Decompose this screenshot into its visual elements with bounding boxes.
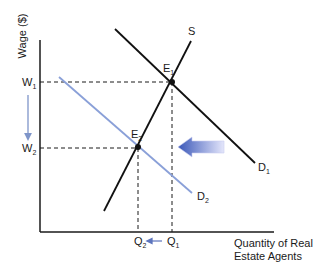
q2-subscript: 2 (143, 242, 147, 249)
e2-label: E2 (131, 128, 142, 142)
e1-letter: E (163, 62, 170, 74)
demand-d1-letter: D (258, 161, 266, 173)
q1-subscript: 1 (176, 242, 180, 249)
demand-d2-subscript: 2 (205, 197, 209, 204)
x-axis-label-line1: Quantity of Real (234, 237, 313, 249)
labor-market-diagram: Wage ($) Quantity of Real Estate Agents … (0, 0, 333, 275)
e2-subscript: 2 (138, 135, 142, 142)
equilibrium-point-e1 (169, 79, 175, 85)
q2-label: Q2 (134, 235, 147, 249)
w2-label: W2 (22, 142, 36, 156)
w1-letter: W (22, 76, 33, 88)
w2-subscript: 2 (32, 149, 36, 156)
demand-d1-subscript: 1 (266, 168, 270, 175)
e2-letter: E (131, 128, 138, 140)
e1-label: E1 (163, 62, 174, 76)
supply-curve (104, 41, 191, 211)
w1-subscript: 1 (32, 83, 36, 90)
q1-label: Q1 (167, 235, 180, 249)
w2-letter: W (22, 142, 33, 154)
supply-label: S (188, 25, 195, 37)
demand-d1-label: D1 (258, 161, 270, 175)
equilibrium-point-e2 (135, 144, 141, 150)
x-axis-label-line2: Estate Agents (234, 250, 302, 262)
w1-label: W1 (22, 76, 36, 90)
demand-d2-letter: D (197, 190, 205, 202)
e1-subscript: 1 (170, 69, 174, 76)
demand-shift-arrow-icon (178, 137, 224, 157)
demand-d2-label: D2 (197, 190, 209, 204)
y-axis-label: Wage ($) (16, 14, 28, 59)
